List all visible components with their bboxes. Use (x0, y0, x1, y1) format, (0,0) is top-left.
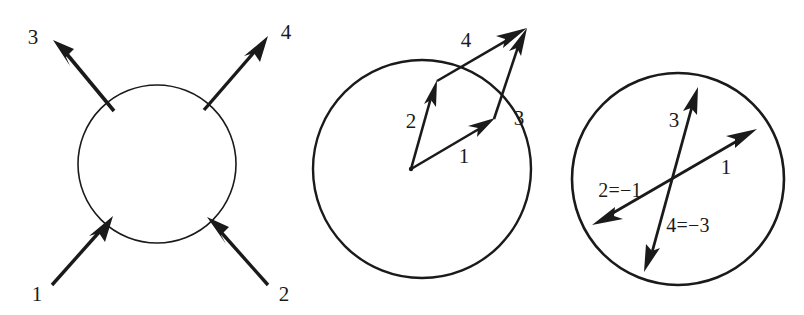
left-arrow-2-shaft (220, 231, 268, 285)
right-label-2-eq-minus-1: 2=−1 (598, 179, 641, 201)
left-label-1: 1 (32, 282, 43, 306)
middle-label-2: 2 (406, 109, 417, 133)
left-arrow-3 (53, 40, 114, 111)
panel-left: 3 4 1 2 (28, 20, 292, 306)
middle-label-4: 4 (461, 28, 472, 52)
left-label-2: 2 (279, 282, 290, 306)
left-label-3: 3 (28, 25, 39, 49)
middle-arrow-4 (437, 28, 527, 81)
left-arrow-1-shaft (52, 230, 101, 285)
right-label-3: 3 (669, 108, 680, 132)
left-arrow-1 (52, 216, 113, 285)
left-arrow-3-shaft (66, 53, 114, 111)
left-label-4: 4 (281, 20, 292, 44)
left-arrow-4 (204, 36, 268, 110)
right-chord-1 (592, 129, 757, 225)
diagram-canvas: 3 4 1 2 (0, 0, 804, 315)
middle-label-3: 3 (514, 106, 525, 130)
middle-circle (313, 60, 531, 278)
left-circle (78, 85, 236, 243)
right-label-1: 1 (721, 155, 732, 179)
panel-middle: 4 2 1 3 (313, 28, 531, 278)
middle-label-1: 1 (459, 144, 470, 168)
panel-right: 3 1 2=−1 4=−3 (572, 73, 784, 285)
left-arrow-3-head (53, 40, 74, 66)
scattering-diagram-figure: 3 4 1 2 (0, 0, 804, 315)
right-label-4-eq-minus-3: 4=−3 (666, 214, 709, 236)
left-arrow-4-shaft (204, 50, 256, 110)
left-arrow-2 (207, 217, 268, 285)
